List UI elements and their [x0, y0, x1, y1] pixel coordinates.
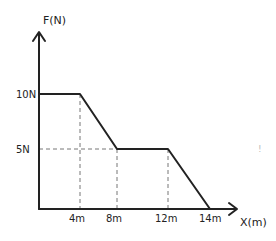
axes: [33, 32, 237, 215]
y-tick-10: 10N: [16, 89, 36, 100]
x-axis-label: X(m): [240, 216, 267, 229]
x-tick-8: 8m: [106, 213, 122, 224]
x-tick-12: 12m: [155, 213, 177, 224]
force-distance-chart: F(N) X(m) 10N 5N 4m 8m 12m 14m !: [0, 0, 276, 241]
y-axis-label: F(N): [43, 14, 66, 27]
guide-lines: [39, 94, 168, 209]
x-tick-14: 14m: [199, 213, 221, 224]
y-tick-5: 5N: [16, 144, 30, 155]
stray-mark: !: [258, 144, 262, 154]
x-tick-4: 4m: [69, 213, 85, 224]
force-line: [39, 94, 210, 209]
